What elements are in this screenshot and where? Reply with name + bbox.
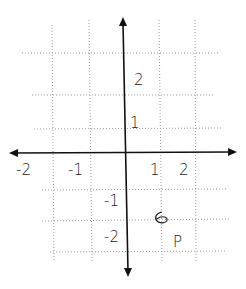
x-axis-right-arrow-icon <box>228 148 237 156</box>
x-label-neg2: -2 <box>16 161 31 179</box>
point-p-label: P <box>173 233 182 251</box>
y-label-2: 2 <box>134 71 144 89</box>
y-label-neg1: -1 <box>104 192 119 210</box>
y-label-1: 1 <box>130 114 140 132</box>
x-axis-left-arrow-icon <box>9 149 18 157</box>
x-label-1: 1 <box>150 161 160 179</box>
coordinate-plane: 2 1 -2 -1 1 2 -1 -2 P <box>0 0 246 289</box>
x-label-neg1: -1 <box>68 161 83 179</box>
y-axis-up-arrow-icon <box>119 17 127 26</box>
x-axis <box>9 148 237 157</box>
x-label-2: 2 <box>179 161 189 179</box>
y-axis <box>119 17 132 277</box>
y-label-neg2: -2 <box>104 228 119 246</box>
y-axis-down-arrow-icon <box>124 268 132 277</box>
